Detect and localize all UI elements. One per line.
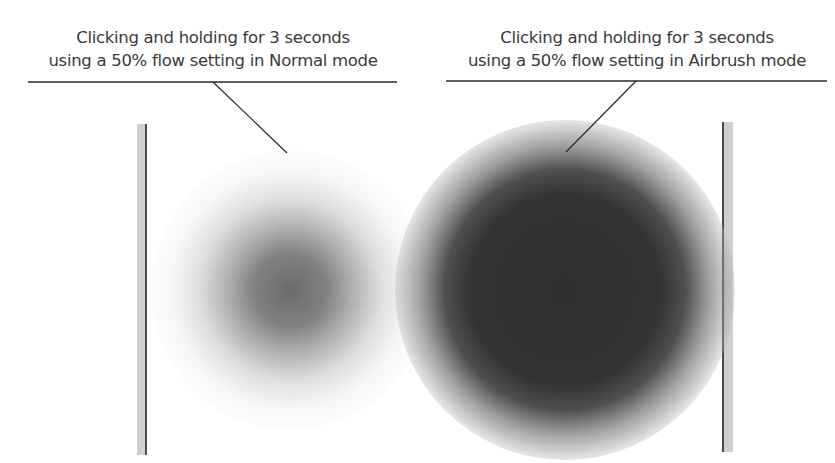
callout-lines bbox=[0, 0, 835, 463]
callout-airbrush-leader-line bbox=[566, 81, 636, 152]
callout-normal-leader-line bbox=[213, 82, 287, 153]
